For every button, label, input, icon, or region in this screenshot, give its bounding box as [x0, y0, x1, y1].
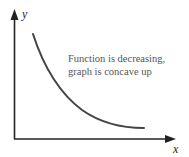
annotation-line-1: Function is decreasing,	[68, 53, 165, 64]
y-axis-arrow-icon	[11, 9, 19, 20]
x-axis-label: x	[172, 142, 179, 156]
decreasing-concave-up-curve	[33, 34, 144, 128]
graph-canvas: y x Function is decreasing, graph is con…	[0, 0, 189, 157]
y-axis-label: y	[21, 7, 28, 21]
annotation-line-2: graph is concave up	[68, 66, 152, 77]
